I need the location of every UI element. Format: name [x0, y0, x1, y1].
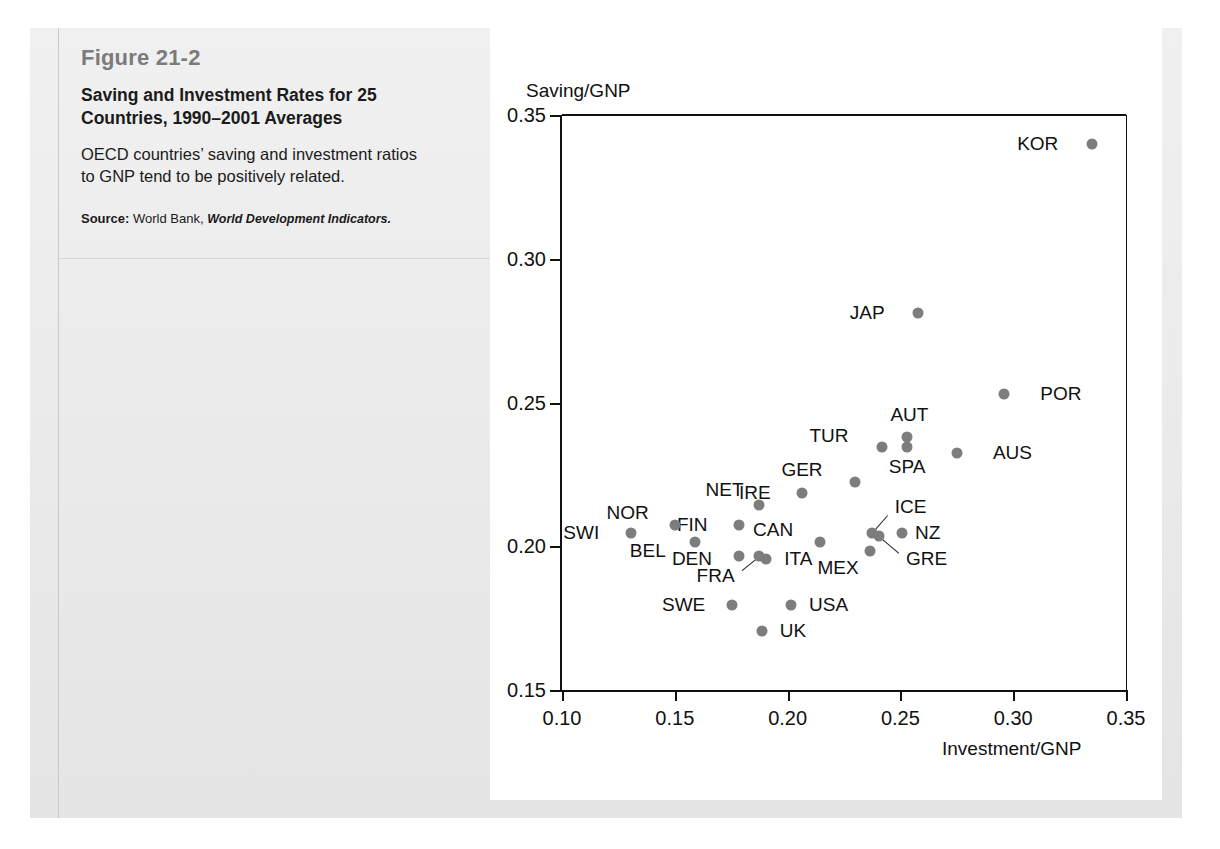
data-point-label-nor: NOR: [607, 502, 649, 524]
figure-description: OECD countries’ saving and investment ra…: [81, 143, 426, 187]
data-point-ger[interactable]: [850, 476, 861, 487]
data-point-label-fin: FIN: [677, 514, 708, 536]
data-point-label-usa: USA: [809, 594, 848, 616]
data-point-usa[interactable]: [785, 600, 796, 611]
data-point-label-nz: NZ: [915, 522, 940, 544]
y-tick-mark: [550, 403, 562, 405]
x-tick-label: 0.10: [543, 707, 582, 730]
data-point-label-gre: GRE: [906, 548, 947, 570]
data-point-gre[interactable]: [873, 531, 884, 542]
y-tick-label: 0.20: [507, 535, 546, 558]
data-point-label-aut: AUT: [890, 404, 928, 426]
data-point-label-fra: FRA: [697, 565, 735, 587]
data-point-label-bel: BEL: [630, 540, 666, 562]
data-point-label-ger: GER: [781, 459, 822, 481]
data-point-label-ice: ICE: [895, 496, 927, 518]
data-point-ita[interactable]: [761, 554, 772, 565]
data-point-label-spa: SPA: [889, 456, 926, 478]
data-point-label-por: POR: [1040, 383, 1081, 405]
data-point-uk[interactable]: [756, 626, 767, 637]
y-tick-label: 0.30: [507, 247, 546, 270]
chart-panel: Saving/GNP 0.150.200.250.300.35 0.100.15…: [490, 28, 1162, 800]
data-point-label-ita: ITA: [784, 548, 812, 570]
data-point-label-kor: KOR: [1017, 133, 1058, 155]
y-tick-label: 0.35: [507, 104, 546, 127]
source-text: World Bank,: [129, 211, 207, 226]
data-point-ire[interactable]: [797, 488, 808, 499]
x-tick-mark: [675, 690, 677, 701]
figure-number: Figure 21-2: [81, 46, 464, 70]
x-tick-mark: [1013, 690, 1015, 701]
data-point-label-aus: AUS: [993, 442, 1032, 464]
data-point-label-swe: SWE: [662, 594, 705, 616]
x-axis-title: Investment/GNP: [942, 738, 1081, 760]
y-tick-mark: [550, 115, 562, 117]
data-point-label-net: NET: [706, 479, 744, 501]
plot-top-border: [562, 114, 1126, 116]
x-tick-mark: [788, 690, 790, 701]
x-tick-label: 0.35: [1107, 707, 1146, 730]
y-tick-label: 0.25: [507, 391, 546, 414]
plot-right-border: [1126, 115, 1128, 690]
data-point-fin[interactable]: [734, 519, 745, 530]
data-point-swi[interactable]: [625, 528, 636, 539]
x-tick-label: 0.25: [881, 707, 920, 730]
data-point-label-jap: JAP: [850, 302, 885, 324]
y-tick-mark: [550, 259, 562, 261]
y-tick-label: 0.15: [507, 679, 546, 702]
data-point-label-swi: SWI: [563, 522, 599, 544]
x-tick-label: 0.30: [994, 707, 1033, 730]
x-tick-label: 0.20: [768, 707, 807, 730]
y-tick-mark: [550, 690, 562, 692]
x-tick-mark: [562, 690, 564, 701]
data-point-aus[interactable]: [951, 447, 962, 458]
x-tick-mark: [1126, 690, 1128, 701]
data-point-net[interactable]: [754, 499, 765, 510]
data-point-label-tur: TUR: [809, 425, 848, 447]
source-label: Source:: [81, 211, 129, 226]
data-point-tur[interactable]: [877, 442, 888, 453]
figure-title: Saving and Investment Rates for 25 Count…: [81, 84, 411, 129]
data-point-label-can: CAN: [753, 519, 793, 541]
y-tick-mark: [550, 546, 562, 548]
data-point-bel[interactable]: [690, 536, 701, 547]
scatter-plot-area: 0.150.200.250.300.35 0.100.150.200.250.3…: [560, 115, 1126, 692]
data-point-spa[interactable]: [902, 442, 913, 453]
data-point-kor[interactable]: [1087, 138, 1098, 149]
data-point-nor[interactable]: [669, 519, 680, 530]
x-tick-mark: [900, 690, 902, 701]
data-point-mex[interactable]: [864, 545, 875, 556]
source-publication: World Development Indicators.: [207, 212, 391, 226]
data-point-jap[interactable]: [913, 308, 924, 319]
x-tick-label: 0.15: [655, 707, 694, 730]
data-point-por[interactable]: [999, 388, 1010, 399]
data-point-den[interactable]: [734, 551, 745, 562]
data-point-label-mex: MEX: [817, 557, 858, 579]
data-point-swe[interactable]: [727, 600, 738, 611]
data-point-label-uk: UK: [780, 620, 806, 642]
y-axis-title: Saving/GNP: [526, 80, 631, 102]
data-point-can[interactable]: [815, 536, 826, 547]
data-point-nz[interactable]: [896, 528, 907, 539]
figure-caption-panel: Figure 21-2 Saving and Investment Rates …: [58, 28, 490, 818]
figure-source: Source: World Bank, World Development In…: [81, 211, 441, 228]
caption-divider: [58, 258, 490, 259]
